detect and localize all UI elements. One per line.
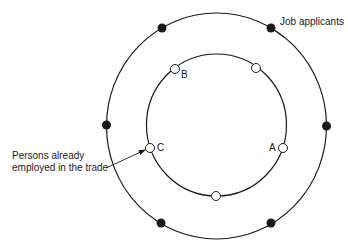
point-label-a: A bbox=[269, 142, 276, 154]
employed-label-line1: Persons already bbox=[12, 150, 84, 162]
point-label-b: B bbox=[181, 69, 188, 81]
outer-circle bbox=[107, 13, 327, 239]
inner-circle bbox=[147, 54, 287, 196]
applicant-leader-line bbox=[271, 28, 285, 38]
employed-label-line2: employed in the trade bbox=[12, 162, 108, 174]
employed-person-dots bbox=[146, 64, 288, 201]
diagram: Job applicants B C A Persons already emp… bbox=[0, 0, 348, 248]
point-label-c: C bbox=[157, 142, 164, 154]
circles-diagram bbox=[0, 0, 348, 248]
job-applicants-label: Job applicants bbox=[280, 16, 344, 28]
